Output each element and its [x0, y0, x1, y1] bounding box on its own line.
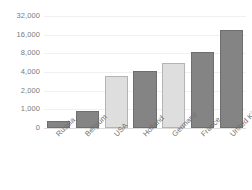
- bar[interactable]: [220, 30, 243, 128]
- y-axis-tick-label: 32,000: [0, 12, 40, 20]
- bar[interactable]: [105, 76, 128, 128]
- y-axis-tick-label: 0: [0, 124, 40, 132]
- y-axis-tick-label: 1,000: [0, 105, 40, 113]
- y-axis-tick-label: 4,000: [0, 68, 40, 76]
- y-axis: 01,0002,0004,0008,00016,00032,000: [0, 16, 40, 128]
- y-axis-tick-label: 2,000: [0, 87, 40, 95]
- plot-area: [44, 16, 246, 128]
- chart-title-strip: [0, 0, 252, 8]
- x-axis: RussiaBelgiumUSAHollandGermanyFranceUnit…: [44, 130, 252, 190]
- y-axis-tick-label: 8,000: [0, 49, 40, 57]
- y-axis-tick-label: 16,000: [0, 31, 40, 39]
- bar-chart: 01,0002,0004,0008,00016,00032,000 Russia…: [0, 0, 252, 190]
- bars-group: [44, 16, 246, 128]
